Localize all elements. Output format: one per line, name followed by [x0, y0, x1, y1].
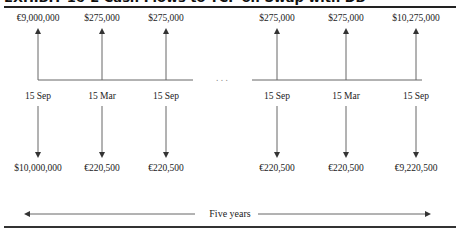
- inflow-amount: $275,000: [148, 13, 184, 23]
- inflow-amount: €9,000,000: [17, 13, 60, 23]
- outflow-amount: €220,500: [259, 163, 295, 173]
- outflow-amount: €220,500: [328, 163, 364, 173]
- outflow-amount: €220,500: [84, 163, 120, 173]
- outflow-amount: €9,220,500: [395, 163, 438, 173]
- cash-flow-diagram: [0, 0, 460, 232]
- ellipsis: . . .: [216, 73, 228, 83]
- payment-date: 15 Mar: [332, 91, 360, 101]
- duration-label: Five years: [205, 208, 254, 219]
- payment-date: 15 Sep: [25, 91, 51, 101]
- inflow-amount: $275,000: [328, 13, 364, 23]
- payment-date: 15 Sep: [153, 91, 179, 101]
- inflow-amount: $275,000: [84, 13, 120, 23]
- inflow-amount: $10,275,000: [392, 13, 440, 23]
- payment-date: 15 Sep: [403, 91, 429, 101]
- payment-date: 15 Mar: [88, 91, 116, 101]
- payment-date: 15 Sep: [264, 91, 290, 101]
- outflow-amount: €220,500: [148, 163, 184, 173]
- bottom-rule: [4, 226, 456, 228]
- outflow-amount: $10,000,000: [14, 163, 62, 173]
- inflow-amount: $275,000: [259, 13, 295, 23]
